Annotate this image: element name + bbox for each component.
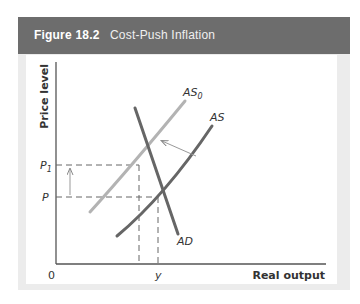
p-label: P xyxy=(42,191,49,204)
supply-shift-arrow xyxy=(162,141,196,156)
ad-label: AD xyxy=(176,235,193,248)
p1-label: P1 xyxy=(40,159,52,174)
as0-label: AS0 xyxy=(182,86,203,101)
as-label: AS xyxy=(209,111,225,124)
y-tick-label: y xyxy=(154,269,162,282)
x-axis-label: Real output xyxy=(252,269,325,282)
y-axis-label: Price level xyxy=(38,64,51,129)
chart-svg: AS0 AS AD P1 P y 0 Real output Price lev… xyxy=(0,0,360,304)
origin-label: 0 xyxy=(48,269,55,282)
